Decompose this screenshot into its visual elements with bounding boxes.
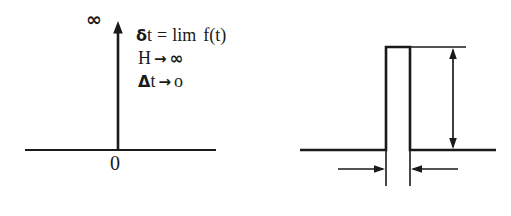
equation-line-h-to-infinity: H→∞	[136, 47, 226, 70]
right-arrow-icon-2: →	[155, 73, 174, 91]
dt-arrow-head-right	[411, 165, 422, 173]
impulse-function-figure: ∞ 0 δt=limf(t) H→∞ Δt→o	[0, 0, 511, 216]
delta-symbol: δ	[136, 26, 147, 45]
limit-keyword: lim	[172, 25, 196, 45]
dt-arrow-head-left	[374, 165, 385, 173]
right-arrow-icon: →	[151, 50, 170, 68]
equation-line-dt-to-zero: Δt→o	[136, 70, 226, 93]
function-ft: f(t)	[196, 25, 226, 45]
infinity-symbol: ∞	[170, 48, 184, 68]
h-arrow-head-up	[449, 48, 457, 59]
limit-equation-block: δt=limf(t) H→∞ Δt→o	[136, 24, 226, 93]
zero-target: o	[174, 71, 183, 91]
pulse-waveform	[300, 47, 496, 150]
equals-operator: =	[152, 25, 172, 45]
left-panel-impulse: ∞ 0 δt=limf(t) H→∞ Δt→o	[0, 0, 270, 216]
capital-delta-symbol: Δ	[138, 72, 150, 91]
variable-h: H	[138, 48, 151, 68]
infinity-axis-label: ∞	[86, 10, 102, 29]
impulse-axes-graphic	[0, 0, 270, 216]
origin-label: 0	[110, 153, 120, 173]
impulse-arrow-head	[113, 21, 123, 34]
right-panel-pulse: f(t) H Δt	[270, 0, 511, 216]
pulse-graphic	[270, 0, 511, 216]
h-arrow-head-down	[449, 138, 457, 149]
equation-line-delta-definition: δt=limf(t)	[136, 24, 226, 47]
